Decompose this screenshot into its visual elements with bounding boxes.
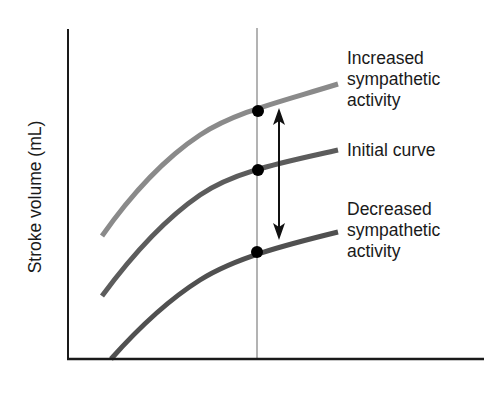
double-arrow-icon xyxy=(273,108,285,240)
decreased-marker-dot xyxy=(251,246,263,258)
label-initial-curve: Initial curve xyxy=(347,140,436,161)
label-decreased-sympathetic: Decreased sympathetic activity xyxy=(347,199,440,262)
initial-marker-dot xyxy=(252,164,264,176)
initial-curve xyxy=(102,150,338,296)
y-axis-label: Stroke volume (mL) xyxy=(25,121,46,274)
increased-marker-dot xyxy=(252,105,264,117)
label-increased-sympathetic: Increased sympathetic activity xyxy=(347,48,440,111)
decreased-sympathetic-curve xyxy=(111,232,338,359)
